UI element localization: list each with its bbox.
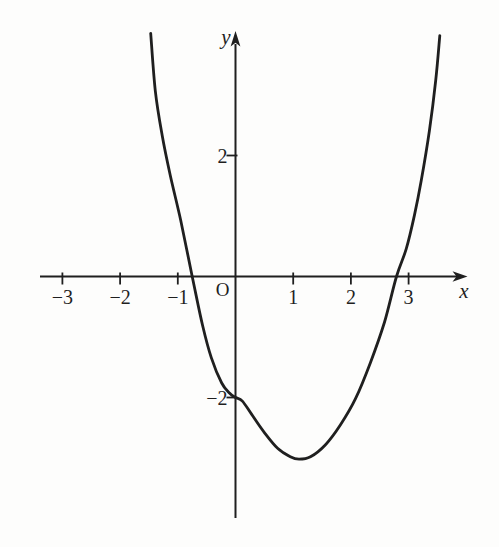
function-curve (151, 33, 440, 459)
y-tick-label: 2 (218, 145, 228, 167)
x-axis-label: x (458, 279, 469, 303)
origin-label: O (216, 279, 230, 300)
x-tick-label: −1 (167, 286, 188, 308)
y-axis-label: y (219, 25, 231, 49)
y-tick-label: −2 (206, 387, 227, 409)
x-tick-label: −2 (109, 286, 130, 308)
plot-svg: −3−2−1123 2−2 O x y (0, 0, 499, 547)
y-axis (231, 31, 241, 518)
x-axis-ticks: −3−2−1123 (52, 273, 414, 308)
x-axis (40, 271, 468, 281)
x-tick-label: 2 (346, 286, 356, 308)
x-tick-label: −3 (52, 286, 73, 308)
function-graph-figure: −3−2−1123 2−2 O x y (0, 0, 499, 547)
x-tick-label: 1 (288, 286, 298, 308)
x-tick-label: 3 (404, 286, 414, 308)
